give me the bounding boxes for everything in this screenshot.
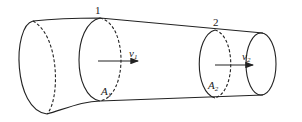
velocity-1-label: v1	[129, 47, 137, 61]
left-end-front-arc	[19, 21, 47, 114]
area-2-label: A2	[207, 79, 219, 93]
section-2-number: 2	[213, 16, 219, 28]
section-1-number: 1	[95, 4, 101, 16]
area-1-label: A1	[100, 85, 111, 99]
tube-bottom-edge	[47, 95, 263, 114]
section-1-front-arc	[79, 18, 100, 101]
tube-top-edge	[33, 18, 263, 33]
left-end-back-arc	[33, 21, 55, 114]
diagram-canvas: 1 2 v1 v2 A1 A2	[0, 0, 302, 122]
flow-tube-diagram: 1 2 v1 v2 A1 A2	[0, 0, 302, 122]
right-end-ellipse	[246, 33, 276, 95]
velocity-2-label: v2	[242, 50, 251, 64]
